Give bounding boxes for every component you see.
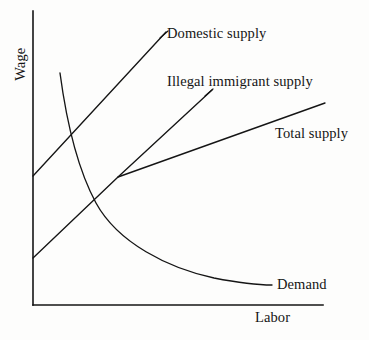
illegal-immigrant-supply-line <box>118 90 212 177</box>
total-supply-label: Total supply <box>275 126 348 141</box>
y-axis-label: Wage <box>13 38 28 90</box>
domestic-supply-line <box>33 32 166 176</box>
axes-group <box>33 11 323 305</box>
x-axis-label: Labor <box>255 310 290 325</box>
supply-demand-figure: Domestic supply Illegal immigrant supply… <box>0 0 369 340</box>
illegal-supply-leader <box>205 89 213 96</box>
domestic-supply-label: Domestic supply <box>167 26 266 41</box>
demand-label: Demand <box>277 277 327 292</box>
demand-curve <box>60 73 272 285</box>
illegal-immigrant-supply-label: Illegal immigrant supply <box>167 74 313 89</box>
